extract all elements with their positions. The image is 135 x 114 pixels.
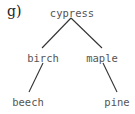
node-birch: birch: [27, 52, 59, 64]
node-maple: maple: [86, 52, 118, 64]
node-pine: pine: [104, 96, 129, 108]
edge-maple-pine: [103, 63, 117, 92]
node-beech: beech: [12, 96, 44, 108]
edge-cypress-birch: [42, 18, 71, 48]
node-cypress: cypress: [50, 7, 94, 19]
edge-birch-beech: [29, 63, 43, 92]
edge-cypress-maple: [71, 18, 102, 48]
